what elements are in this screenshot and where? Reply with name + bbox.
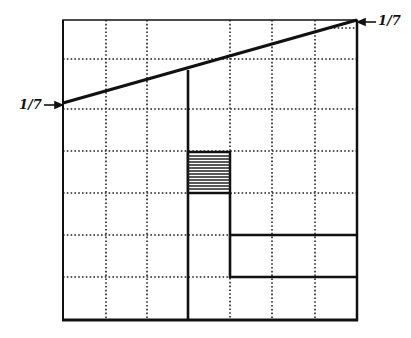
stacked-rectangles — [229, 193, 357, 278]
sloped-line — [63, 20, 357, 103]
left-arrow-icon — [44, 102, 62, 108]
grid-diagram — [0, 0, 411, 338]
right-arrow-icon — [358, 19, 376, 25]
right-fraction-label: 1/7 — [378, 14, 401, 27]
left-fraction-label: 1/7 — [19, 98, 42, 111]
hatched-cell — [188, 152, 230, 193]
